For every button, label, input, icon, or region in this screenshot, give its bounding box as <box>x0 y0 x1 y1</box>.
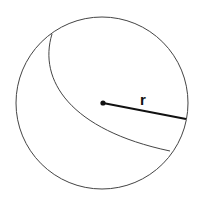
center-point <box>100 100 105 105</box>
radius-label: r <box>140 91 146 108</box>
sphere-diagram: r <box>0 0 202 201</box>
shadow-arc <box>49 34 170 151</box>
